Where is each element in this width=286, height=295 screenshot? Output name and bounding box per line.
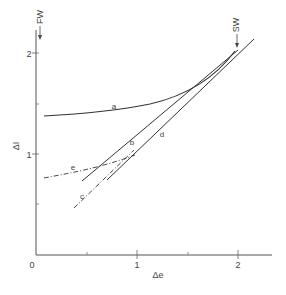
curve-c-label: c xyxy=(80,192,84,201)
curve-a xyxy=(44,51,235,116)
curve-b xyxy=(82,50,238,181)
x-tick-label-2: 2 xyxy=(235,260,240,270)
curve-d xyxy=(107,39,254,180)
sw-label: SW xyxy=(231,17,241,32)
origin-label: 0 xyxy=(29,260,34,270)
fw-arrowhead-icon xyxy=(38,35,42,40)
y-tick-label-2: 2 xyxy=(26,49,31,59)
sw-arrowhead-icon xyxy=(235,43,239,48)
curve-a-label: a xyxy=(112,102,117,111)
curve-b-label: b xyxy=(130,138,135,147)
chart: 2 1 0 1 2 Δe ΔI FW SW a b d c e xyxy=(0,0,286,295)
fw-label: FW xyxy=(35,10,45,24)
y-axis-label: ΔI xyxy=(11,142,21,151)
curve-e-label: e xyxy=(71,163,76,172)
x-tick-label-1: 1 xyxy=(134,260,139,270)
curve-d-label: d xyxy=(160,130,164,139)
y-tick-label-1: 1 xyxy=(26,150,31,160)
x-axis-label: Δe xyxy=(152,270,163,280)
